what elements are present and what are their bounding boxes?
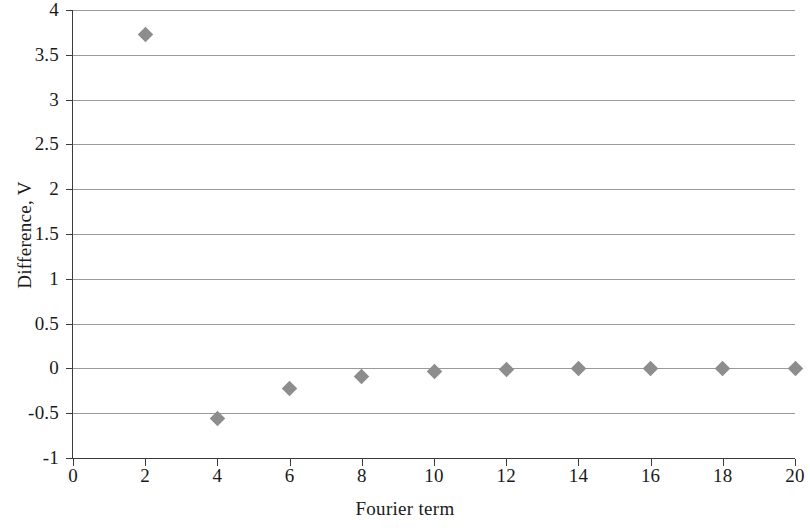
y-tick-mark (66, 234, 73, 235)
y-tick-mark (66, 458, 73, 459)
x-tick-label: 16 (641, 466, 660, 486)
y-tick-mark (66, 100, 73, 101)
y-tick-label: -1 (43, 448, 59, 467)
gridline (73, 10, 795, 11)
y-tick-mark (66, 189, 73, 190)
gridline (73, 279, 795, 280)
chart-figure: -1-0.500.511.522.533.54 0246810121416182… (0, 0, 810, 528)
x-tick-label: 14 (569, 466, 588, 486)
x-tick-label: 8 (357, 466, 367, 486)
gridline (73, 324, 795, 325)
x-tick-label: 4 (213, 466, 223, 486)
plot-area (73, 10, 795, 458)
y-tick-label: 3.5 (35, 45, 59, 64)
y-tick-mark (66, 10, 73, 11)
gridline (73, 189, 795, 190)
y-tick-label: 0 (49, 358, 59, 377)
y-tick-label: 3 (49, 90, 59, 109)
y-tick-label: 2.5 (35, 134, 59, 153)
x-tick-label: 18 (713, 466, 732, 486)
x-tick-label: 0 (68, 466, 78, 486)
y-tick-label: 1 (49, 269, 59, 288)
y-axis-title: Difference, V (12, 11, 38, 459)
y-tick-label: 4 (49, 0, 59, 19)
gridline (73, 413, 795, 414)
y-tick-label: 1.5 (35, 224, 59, 243)
x-tick-label: 6 (285, 466, 295, 486)
y-tick-mark (66, 324, 73, 325)
y-tick-mark (66, 144, 73, 145)
y-tick-mark (66, 368, 73, 369)
y-tick-label: 2 (49, 179, 59, 198)
gridline (73, 234, 795, 235)
y-tick-mark (66, 413, 73, 414)
gridline (73, 144, 795, 145)
x-tick-label: 10 (424, 466, 443, 486)
x-tick-label: 20 (785, 466, 804, 486)
x-tick-label: 2 (140, 466, 150, 486)
x-axis-title: Fourier term (0, 498, 810, 520)
gridline (73, 55, 795, 56)
gridline (73, 100, 795, 101)
y-tick-mark (66, 55, 73, 56)
y-tick-mark (66, 279, 73, 280)
y-tick-label: 0.5 (35, 314, 59, 333)
x-tick-label: 12 (496, 466, 515, 486)
